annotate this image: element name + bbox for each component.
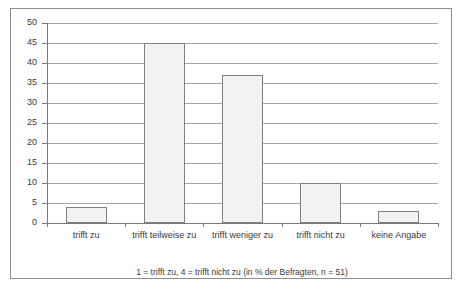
y-tick-label: 30 (11, 98, 37, 107)
bar (222, 75, 263, 223)
x-tick-mark (282, 223, 283, 227)
y-tick-label: 10 (11, 178, 37, 187)
y-tick-label: 35 (11, 78, 37, 87)
chart-figure: 05101520253035404550 trifft zutrifft tei… (0, 0, 464, 290)
bar (144, 43, 185, 223)
x-axis-label: keine Angabe (360, 230, 438, 241)
chart-footnote: 1 = trifft zu, 4 = trifft nicht zu (in %… (21, 267, 463, 277)
plot-area (47, 23, 438, 223)
chart-frame: 05101520253035404550 trifft zutrifft tei… (10, 8, 452, 279)
y-tick-label: 50 (11, 18, 37, 27)
x-axis-label: trifft nicht zu (282, 230, 360, 241)
x-tick-mark (125, 223, 126, 227)
x-axis-label: trifft teilweise zu (125, 230, 203, 241)
x-tick-mark (360, 223, 361, 227)
x-tick-mark (47, 223, 48, 227)
x-axis-label: trifft zu (47, 230, 125, 241)
y-tick-label: 15 (11, 158, 37, 167)
y-tick-label: 25 (11, 118, 37, 127)
bar (66, 207, 107, 223)
gridline (47, 223, 438, 224)
y-tick-label: 20 (11, 138, 37, 147)
y-tick-label: 0 (11, 218, 37, 227)
y-tick-label: 45 (11, 38, 37, 47)
y-tick-label: 40 (11, 58, 37, 67)
bar (300, 183, 341, 223)
x-tick-mark (203, 223, 204, 227)
x-tick-mark (438, 223, 439, 227)
y-tick-label: 5 (11, 198, 37, 207)
bar (378, 211, 419, 223)
x-axis-label: trifft weniger zu (203, 230, 281, 241)
